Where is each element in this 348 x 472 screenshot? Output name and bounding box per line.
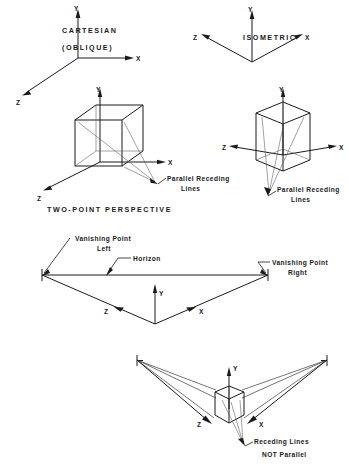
isometric-callout-line2: Lines <box>291 196 310 203</box>
perspective-envelope-right <box>252 360 327 420</box>
perspective-ray-right-1 <box>242 360 327 390</box>
isometric-cube-axis-x-arrowhead <box>328 145 337 150</box>
diagram-canvas: Y X Z CARTESIAN (OBLIQUE) <box>0 0 348 472</box>
perspective-envelope-left <box>137 360 207 420</box>
cartesian-axis-z-line <box>27 58 78 92</box>
perspective-ray-left-3 <box>137 360 214 418</box>
isometric-callout-pointer-2 <box>269 127 283 193</box>
vanishing-point-left-label-line1: Vanishing Point <box>75 235 132 243</box>
isometric-axis-y-label: Y <box>248 6 253 13</box>
oblique-cube-receding-edge-top-right <box>122 105 143 120</box>
isometric-heading: ISOMETRIC <box>243 33 296 42</box>
perspective-ray-right-2 <box>242 360 327 398</box>
vanishing-point-right-label-line1: Vanishing Point <box>272 259 329 267</box>
oblique-cube-axis-x-arrowhead <box>157 160 166 165</box>
oblique-cube-axis-x-label: X <box>168 159 173 166</box>
perspective-axis-y-label: Y <box>233 365 238 372</box>
perspective-callout-line2: NOT Parallel <box>262 451 307 458</box>
perspective-callout-arrowhead <box>238 438 245 446</box>
isometric-cube-group <box>229 88 337 196</box>
isometric-cube-axis-z-label: Z <box>222 144 226 151</box>
oblique-cube-axis-z-label: Z <box>37 195 41 202</box>
perspective-cube-group <box>137 355 327 446</box>
isometric-callout-pointer-3 <box>269 117 304 193</box>
vanishing-point-left-leader <box>44 238 70 273</box>
oblique-callout-pointer-2 <box>124 122 155 182</box>
convergence-line-left <box>42 275 155 324</box>
vanishing-point-left-label-line2: Left <box>97 245 111 252</box>
cartesian-axis-x-label: X <box>136 55 141 62</box>
perspective-axis-z-label: Z <box>197 421 201 428</box>
oblique-cube-receding-edge-top-left <box>75 105 96 120</box>
isometric-cube-axis-x-label: X <box>339 144 344 151</box>
oblique-cube-receding-edge-hidden <box>75 151 96 166</box>
isometric-cube-bottom-edge-right <box>283 160 310 171</box>
cartesian-heading-line2: (OBLIQUE) <box>62 43 113 52</box>
isometric-axis-x-label: X <box>305 34 310 41</box>
oblique-cube-front-face <box>75 120 122 166</box>
cartesian-axis-z-label: Z <box>16 99 20 106</box>
technical-diagram: Y X Z CARTESIAN (OBLIQUE) <box>0 0 348 472</box>
isometric-cube-bottom-edge-left <box>256 160 283 171</box>
oblique-cube-axis-y-label: Y <box>96 86 101 93</box>
two-point-perspective-heading: TWO-POINT PERSPECTIVE <box>47 205 172 214</box>
perspective-ray-left-2 <box>137 360 216 398</box>
perspective-callout-leader <box>245 442 253 446</box>
perspective-axis-y-arrowhead <box>227 367 231 376</box>
cartesian-axes-group <box>22 9 134 96</box>
perspective-axis-x-label: X <box>259 421 264 428</box>
two-point-axis-y-label: Y <box>159 290 164 297</box>
perspective-callout-pointer-3 <box>240 400 243 443</box>
isometric-callout-line1: Parallel Receding <box>277 186 340 194</box>
oblique-cube-group <box>43 88 166 191</box>
vanishing-point-right-label-line2: Right <box>288 269 307 277</box>
two-point-axis-x-label: X <box>199 308 204 315</box>
cartesian-axis-z-arrowhead <box>22 90 31 95</box>
oblique-callout-line2: Lines <box>181 185 200 192</box>
isometric-cube-axis-x-line <box>283 147 331 155</box>
two-point-axis-y-arrowhead <box>153 284 157 293</box>
oblique-callout-line1: Parallel Receding <box>167 175 230 183</box>
isometric-cube-axis-z-arrowhead <box>229 145 238 150</box>
cartesian-heading-line1: CARTESIAN <box>62 26 117 35</box>
cartesian-axis-x-arrowhead <box>125 56 134 61</box>
perspective-ray-left-1 <box>137 360 216 390</box>
isometric-cube-axis-z-line <box>235 147 283 155</box>
two-point-perspective-group <box>42 238 270 324</box>
isometric-cube-axis-y-label: Y <box>279 86 284 93</box>
perspective-callout-line1: Receding Lines <box>254 438 309 446</box>
isometric-axis-z-label: Z <box>193 34 197 41</box>
oblique-callout-leader <box>158 178 166 184</box>
cartesian-axis-y-label: Y <box>74 5 79 12</box>
convergence-line-right <box>155 275 268 324</box>
perspective-cube-bottom-edge-left <box>215 415 229 423</box>
two-point-axis-z-label: Z <box>104 308 108 315</box>
perspective-ray-right-3 <box>244 360 327 418</box>
horizon-label: Horizon <box>133 255 161 262</box>
